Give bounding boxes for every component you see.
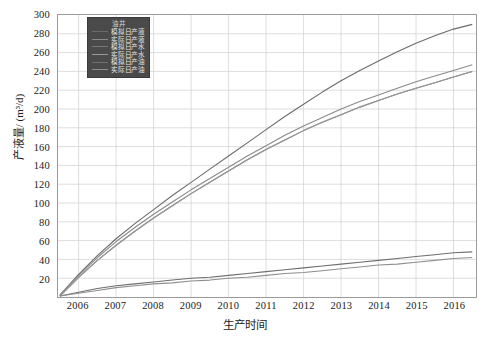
x-axis-title: 生产时间: [0, 316, 490, 332]
y-axis-tick-label: 280: [34, 27, 50, 38]
y-axis-tick-label: 140: [34, 160, 50, 171]
y-axis-tick-label: 60: [39, 236, 50, 247]
y-axis-tick-label: 160: [34, 141, 50, 152]
plot-area: 油井 模拟日产液实际日产液模拟日产水实际日产水模拟日产油实际日产油: [57, 14, 477, 298]
chart-figure: 2040608010012014016018020022024026028030…: [0, 0, 490, 340]
legend-entry: 模拟日产水: [92, 43, 145, 51]
series-line: [60, 252, 472, 296]
y-axis-title: 产液量/ (m³/d): [10, 47, 26, 207]
legend-entry-label: 实际日产油: [111, 66, 145, 74]
x-axis-tick-label: 2006: [67, 300, 89, 311]
legend-entry: 实际日产油: [92, 66, 145, 74]
y-axis-tick-label: 120: [34, 179, 50, 190]
y-axis-tick-label: 40: [39, 255, 50, 266]
y-axis-tick-label: 20: [39, 274, 50, 285]
y-axis-tick-labels: 2040608010012014016018020022024026028030…: [0, 14, 54, 298]
legend-color-swatch: [92, 31, 108, 32]
x-axis-tick-label: 2014: [368, 300, 390, 311]
y-axis-tick-label: 100: [34, 198, 50, 209]
x-axis-tick-label: 2011: [255, 300, 276, 311]
x-axis-tick-label: 2015: [406, 300, 428, 311]
x-axis-tick-label: 2008: [142, 300, 164, 311]
x-axis-tick-label: 2007: [104, 300, 126, 311]
legend-color-swatch: [92, 69, 108, 70]
legend-color-swatch: [92, 54, 108, 55]
y-axis-tick-label: 240: [34, 65, 50, 76]
legend-entry: 模拟日产油: [92, 58, 145, 66]
x-axis-tick-label: 2016: [443, 300, 465, 311]
legend-title: 油井: [92, 20, 145, 27]
y-axis-tick-label: 180: [34, 122, 50, 133]
y-axis-tick-label: 200: [34, 103, 50, 114]
x-axis-tick-label: 2013: [330, 300, 352, 311]
legend-entry-label: 模拟日产液: [111, 28, 145, 36]
y-axis-tick-label: 260: [34, 46, 50, 57]
y-axis-tick-label: 80: [39, 217, 50, 228]
x-axis-tick-label: 2010: [217, 300, 239, 311]
legend-entry-list: 模拟日产液实际日产液模拟日产水实际日产水模拟日产油实际日产油: [92, 28, 145, 74]
y-axis-tick-label: 220: [34, 84, 50, 95]
x-axis-tick-labels: 2006200720082009201020112012201320142015…: [57, 300, 477, 316]
legend-entry-label: 模拟日产油: [111, 58, 145, 66]
legend-color-swatch: [92, 39, 108, 40]
y-axis-tick-label: 300: [34, 9, 50, 20]
series-line: [60, 65, 472, 295]
legend-color-swatch: [92, 62, 108, 63]
x-axis-tick-label: 2012: [293, 300, 315, 311]
x-axis-tick-label: 2009: [180, 300, 202, 311]
legend: 油井 模拟日产液实际日产液模拟日产水实际日产水模拟日产油实际日产油: [87, 17, 150, 78]
legend-entry-label: 模拟日产水: [111, 43, 145, 51]
series-line: [60, 258, 472, 297]
legend-entry: 模拟日产液: [92, 28, 145, 36]
legend-color-swatch: [92, 46, 108, 47]
